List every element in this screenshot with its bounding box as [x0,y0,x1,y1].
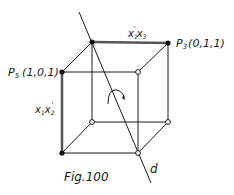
vertex-front-top-right [136,70,141,75]
edge-top-back-thick [92,42,168,43]
edge-p3-to-front-top-right [138,43,168,72]
vertex-p5 [59,69,64,74]
vertex-back-bottom-left [90,120,95,125]
edge-back-top-left-to-p5 [62,42,92,72]
label-top-edge: x1'x3 [127,25,147,40]
label-axis-d: d [150,162,158,176]
open-vertices [90,70,171,156]
edge-bottom-left-diag [62,122,92,153]
vertex-back-bottom-right [166,120,171,125]
vertex-front-bottom-left [59,150,64,155]
cube-diagram: P3(0,1,1) P5(1,0,1) x1'x3 x1x2' d Fig.10… [0,0,234,195]
label-left-edge: x1x2' [34,101,55,116]
label-p5: P5(1,0,1) [8,66,59,80]
label-p3: P3(0,1,1) [176,37,225,51]
figure-caption: Fig.100 [64,170,109,184]
vertex-back-top-left [89,39,94,44]
vertex-p3 [165,40,170,45]
edge-bottom-right-diag [138,122,168,153]
rotation-arrow-icon [108,90,124,104]
vertex-front-bottom-right [136,151,141,156]
